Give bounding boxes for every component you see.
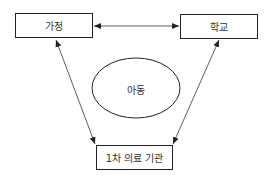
node-home-label: 가정 <box>45 18 63 33</box>
node-child-label: 아동 <box>106 82 166 97</box>
node-school: 학교 <box>180 14 258 39</box>
node-clinic-label: 1차 의료 기관 <box>106 150 164 165</box>
edge-home-clinic <box>56 40 95 144</box>
node-school-label: 학교 <box>210 19 228 34</box>
node-home: 가정 <box>15 13 93 38</box>
node-clinic: 1차 의료 기관 <box>96 145 173 170</box>
